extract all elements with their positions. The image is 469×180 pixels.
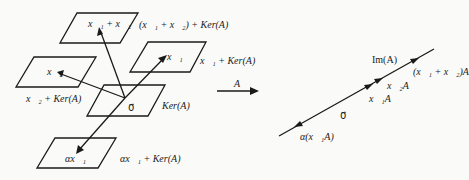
- image-arrow-x1: [364, 84, 373, 90]
- coset-label-sum: (x⃗₁ + x⃗₂) + Ker(A): [139, 19, 229, 31]
- image-line: [279, 49, 434, 136]
- image-line-label: Im(A): [372, 54, 397, 66]
- coset-label-kernel: Ker(A): [161, 100, 190, 112]
- coset-label-x2: x⃗₂ + Ker(A): [25, 93, 82, 105]
- vector-label-sum: x⃗₁ + x⃗₂: [87, 18, 132, 29]
- vector-label-scaled: αx⃗₁: [65, 153, 86, 164]
- image-label-sum: (x⃗₁ + x⃗₂)A: [413, 66, 469, 78]
- arrow-head-x1: [158, 55, 167, 63]
- map-label: A: [233, 78, 241, 89]
- image-arrow-x2: [374, 78, 383, 84]
- arrow-to-scaled: [79, 98, 125, 150]
- coset-label-x1: x⃗₁ + Ker(A): [199, 55, 256, 67]
- vector-label-x2: x⃗₂: [46, 66, 63, 77]
- image-label-x2: x⃗₂A: [386, 80, 410, 91]
- image-arrow-sum: [410, 58, 419, 64]
- kernel-image-diagram: x⃗₁ + x⃗₂ (x⃗₁ + x⃗₂) + Ker(A) x⃗₁ x⃗₁ +…: [0, 0, 469, 180]
- image-label-scaled: α(x⃗₁A): [300, 131, 334, 143]
- kernel-plane: [87, 85, 165, 116]
- vector-label-x1: x⃗₁: [166, 51, 183, 62]
- arrow-to-x1: [125, 58, 164, 98]
- vector-label-zero: 0⃗: [128, 102, 134, 113]
- map-arrow-head: [250, 87, 259, 95]
- image-label-zero: 0⃗: [340, 110, 346, 121]
- image-label-x1: x⃗₁A: [368, 93, 392, 104]
- image-arrow-scaled: [294, 121, 303, 127]
- coset-label-scaled: αx⃗₁ + Ker(A): [120, 153, 181, 165]
- vector-arrows: [57, 27, 167, 154]
